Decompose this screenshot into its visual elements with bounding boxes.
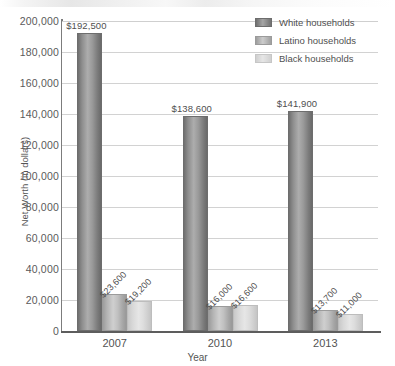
gridline xyxy=(62,83,378,84)
bar-white-households-2007 xyxy=(77,33,102,331)
legend-label-white-households: White households xyxy=(279,17,355,28)
y-axis-tick-label: 80,000 xyxy=(0,201,59,213)
gridline xyxy=(62,269,378,270)
y-axis-tick-label: 20,000 xyxy=(0,294,59,306)
gridline xyxy=(62,114,378,115)
gridline xyxy=(62,207,378,208)
bar-value-label-white-households-2013: $141,900 xyxy=(277,98,317,109)
bar-chart: Net Worth (in dollars) 020,00040,00060,0… xyxy=(0,0,395,366)
legend-swatch-white-households xyxy=(255,18,272,27)
legend-label-latino-households: Latino households xyxy=(279,35,356,46)
x-axis-title: Year xyxy=(0,352,395,363)
y-axis-tick-label: 60,000 xyxy=(0,232,59,244)
x-axis-tick-label-2010: 2010 xyxy=(175,337,265,349)
x-axis-line xyxy=(61,331,381,333)
bar-white-households-2010 xyxy=(183,116,208,331)
bar-value-label-white-households-2010: $138,600 xyxy=(172,103,212,114)
gridline xyxy=(62,145,378,146)
x-axis-tick-label-2007: 2007 xyxy=(70,337,160,349)
y-axis-tick-label: 180,000 xyxy=(0,46,59,58)
legend: White households Latino households Black… xyxy=(255,15,387,69)
legend-label-black-households: Black households xyxy=(279,53,353,64)
y-axis-tick-label: 40,000 xyxy=(0,263,59,275)
gridline xyxy=(62,176,378,177)
bar-value-label-white-households-2007: $192,500 xyxy=(66,20,106,31)
legend-item-white-households[interactable]: White households xyxy=(255,15,387,30)
legend-swatch-latino-households xyxy=(255,36,272,45)
legend-item-latino-households[interactable]: Latino households xyxy=(255,33,387,48)
legend-swatch-black-households xyxy=(255,54,272,63)
y-axis-tick-label: 120,000 xyxy=(0,139,59,151)
y-axis-tick-label: 160,000 xyxy=(0,77,59,89)
x-axis-tick-label-2013: 2013 xyxy=(280,337,370,349)
y-axis-tick-label: 140,000 xyxy=(0,108,59,120)
y-axis-tick-label: 200,000 xyxy=(0,15,59,27)
y-axis-tick-label: 0 xyxy=(0,325,59,337)
bar-white-households-2013 xyxy=(288,111,313,331)
gridline xyxy=(62,238,378,239)
legend-item-black-households[interactable]: Black households xyxy=(255,51,387,66)
y-axis-tick-label: 100,000 xyxy=(0,170,59,182)
